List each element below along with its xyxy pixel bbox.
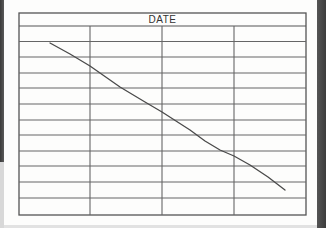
date-header-label: DATE: [19, 13, 306, 26]
trend-line: [50, 43, 285, 190]
chart-grid: [0, 0, 326, 228]
trend-polyline: [50, 43, 285, 190]
